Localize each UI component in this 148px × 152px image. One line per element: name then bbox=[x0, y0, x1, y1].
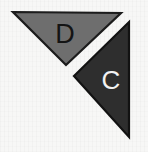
figure-canvas: D C bbox=[0, 0, 148, 152]
shapes-container: D C bbox=[0, 0, 148, 152]
triangle-d-label: D bbox=[55, 19, 75, 49]
triangle-c-label: C bbox=[102, 65, 121, 95]
